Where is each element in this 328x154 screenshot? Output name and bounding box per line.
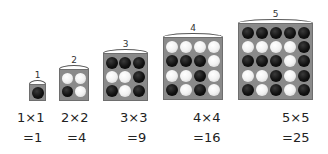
grid-cell bbox=[106, 70, 118, 83]
white-disc-icon bbox=[180, 70, 192, 82]
grid-cell bbox=[297, 40, 310, 53]
grid-size-label: 4 bbox=[163, 23, 223, 33]
grid-cell bbox=[283, 55, 296, 68]
grid-cell bbox=[241, 26, 254, 39]
grid-cell bbox=[269, 69, 282, 82]
grid-size-label: 2 bbox=[59, 55, 89, 65]
black-disc-icon bbox=[62, 86, 73, 97]
grid-cell bbox=[75, 86, 87, 99]
black-disc-icon bbox=[270, 55, 282, 67]
grid-cell bbox=[166, 40, 179, 54]
grid-cell bbox=[194, 69, 207, 83]
grid-cell bbox=[241, 55, 254, 68]
black-disc-icon bbox=[298, 55, 310, 67]
white-disc-icon bbox=[284, 55, 296, 67]
product-label: 2×2 bbox=[61, 110, 88, 125]
white-disc-icon bbox=[284, 84, 296, 96]
white-disc-icon bbox=[242, 70, 254, 82]
grid-cell bbox=[297, 55, 310, 68]
grid-cell bbox=[241, 40, 254, 53]
grid-cell bbox=[255, 84, 268, 97]
black-disc-icon bbox=[284, 27, 296, 39]
grid-cell bbox=[269, 40, 282, 53]
grid-cell bbox=[133, 56, 145, 69]
grid-cell bbox=[62, 72, 74, 85]
grid-cell bbox=[166, 69, 179, 83]
result-label: =9 bbox=[127, 130, 146, 145]
grid-size-label: 1 bbox=[29, 70, 46, 80]
black-disc-icon bbox=[270, 27, 282, 39]
white-disc-icon bbox=[166, 41, 178, 53]
grid-cell bbox=[297, 84, 310, 97]
grid-cell bbox=[255, 40, 268, 53]
grid-cell bbox=[297, 26, 310, 39]
grid-cell bbox=[207, 69, 220, 83]
white-disc-icon bbox=[166, 70, 178, 82]
grid-cell bbox=[180, 69, 193, 83]
grid-cell bbox=[180, 84, 193, 98]
white-disc-icon bbox=[242, 41, 254, 53]
result-label: =25 bbox=[282, 130, 309, 145]
disc-grid-3x3 bbox=[103, 53, 148, 101]
grid-cell bbox=[283, 84, 296, 97]
black-disc-icon bbox=[298, 27, 310, 39]
grid-cell bbox=[269, 55, 282, 68]
black-disc-icon bbox=[242, 84, 254, 96]
grid-cell bbox=[255, 55, 268, 68]
black-disc-icon bbox=[32, 87, 44, 99]
grid-cell bbox=[106, 85, 118, 98]
black-disc-icon bbox=[298, 70, 310, 82]
black-disc-icon bbox=[270, 70, 282, 82]
grid-cell bbox=[194, 55, 207, 69]
white-disc-icon bbox=[208, 55, 220, 67]
white-disc-icon bbox=[62, 73, 73, 84]
black-disc-icon bbox=[106, 85, 118, 97]
grid-cell bbox=[119, 56, 131, 69]
black-disc-icon bbox=[133, 57, 145, 69]
black-disc-icon bbox=[180, 55, 192, 67]
black-disc-icon bbox=[119, 57, 131, 69]
grid-cell bbox=[255, 69, 268, 82]
black-disc-icon bbox=[298, 41, 310, 53]
result-label: =16 bbox=[193, 130, 220, 145]
white-disc-icon bbox=[119, 71, 131, 83]
grid-cell bbox=[166, 55, 179, 69]
black-disc-icon bbox=[194, 84, 206, 96]
product-label: 3×3 bbox=[120, 110, 147, 125]
grid-cell bbox=[241, 69, 254, 82]
grid-cell bbox=[62, 86, 74, 99]
result-label: =1 bbox=[23, 130, 42, 145]
product-label: 4×4 bbox=[193, 110, 220, 125]
white-disc-icon bbox=[208, 84, 220, 96]
white-disc-icon bbox=[256, 70, 268, 82]
white-disc-icon bbox=[284, 41, 296, 53]
grid-cell bbox=[119, 85, 131, 98]
white-disc-icon bbox=[180, 41, 192, 53]
grid-cell bbox=[283, 69, 296, 82]
grid-cell bbox=[133, 70, 145, 83]
grid-cell bbox=[207, 40, 220, 54]
grid-cell bbox=[180, 55, 193, 69]
disc-grid-4x4 bbox=[163, 37, 223, 100]
grid-cell bbox=[207, 84, 220, 98]
grid-size-label: 5 bbox=[238, 9, 313, 19]
grid-cell bbox=[75, 72, 87, 85]
disc-grid-1x1 bbox=[29, 84, 46, 101]
black-disc-icon bbox=[133, 71, 145, 83]
grid-cell bbox=[194, 40, 207, 54]
white-disc-icon bbox=[106, 71, 118, 83]
black-disc-icon bbox=[166, 55, 178, 67]
grid-cell bbox=[207, 55, 220, 69]
product-label: 1×1 bbox=[17, 110, 44, 125]
grid-cell bbox=[166, 84, 179, 98]
black-disc-icon bbox=[270, 84, 282, 96]
black-disc-icon bbox=[256, 27, 268, 39]
black-disc-icon bbox=[242, 27, 254, 39]
white-disc-icon bbox=[256, 41, 268, 53]
grid-cell bbox=[255, 26, 268, 39]
grid-cell bbox=[297, 69, 310, 82]
white-disc-icon bbox=[284, 70, 296, 82]
grid-cell bbox=[283, 40, 296, 53]
white-disc-icon bbox=[208, 70, 220, 82]
grid-cell bbox=[269, 84, 282, 97]
